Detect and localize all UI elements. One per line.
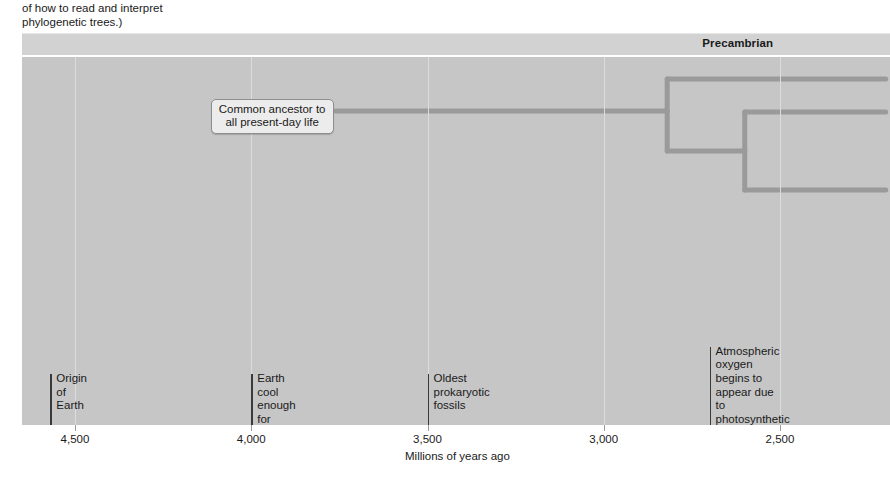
axis-tick-label: 4,500: [61, 433, 90, 445]
axis-tick: [75, 425, 76, 431]
axis-tick: [251, 425, 252, 431]
common-ancestor-callout: Common ancestor to all present-day life: [211, 99, 334, 134]
axis-tick: [780, 425, 781, 431]
era-header-band: Precambrian: [22, 33, 890, 55]
timeline-panel: Origin of EarthEarth cool enough for cru…: [22, 57, 890, 425]
time-axis: Millions of years ago 4,5004,0003,5003,0…: [22, 425, 890, 489]
gridline-4500: [75, 57, 76, 425]
event-label: Origin of Earth: [56, 372, 87, 413]
event-label: Atmospheric oxygen begins to appear due …: [716, 345, 790, 425]
axis-tick: [604, 425, 605, 431]
axis-tick-label: 3,000: [589, 433, 618, 445]
axis-tick-label: 3,500: [413, 433, 442, 445]
axis-tick-label: 2,500: [766, 433, 795, 445]
axis-title: Millions of years ago: [405, 450, 510, 462]
gridline-3500: [428, 57, 429, 425]
axis-tick: [428, 425, 429, 431]
event-rule-line: [710, 347, 712, 425]
event-rule-line: [428, 374, 430, 425]
axis-tick-label: 4,000: [237, 433, 266, 445]
event-rule-line: [50, 374, 52, 425]
figure-caption-text: of how to read and interpret phylogeneti…: [22, 1, 342, 29]
event-label: Earth cool enough for crust to solidify: [257, 372, 295, 425]
gridline-3000: [604, 57, 605, 425]
era-label-precambrian: Precambrian: [702, 37, 773, 49]
event-label: Oldest prokaryotic fossils: [434, 372, 490, 413]
event-rule-line: [251, 374, 253, 425]
